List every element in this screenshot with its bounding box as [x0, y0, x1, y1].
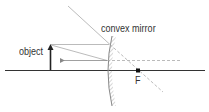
- focal-point-label: F: [135, 74, 141, 86]
- object-label: object: [19, 45, 43, 57]
- convex-mirror-label: convex mirror: [101, 22, 156, 34]
- focal-point-marker: [136, 69, 140, 73]
- object-arrow: [48, 44, 54, 70]
- incident-ray-toward-focus: [51, 45, 107, 61]
